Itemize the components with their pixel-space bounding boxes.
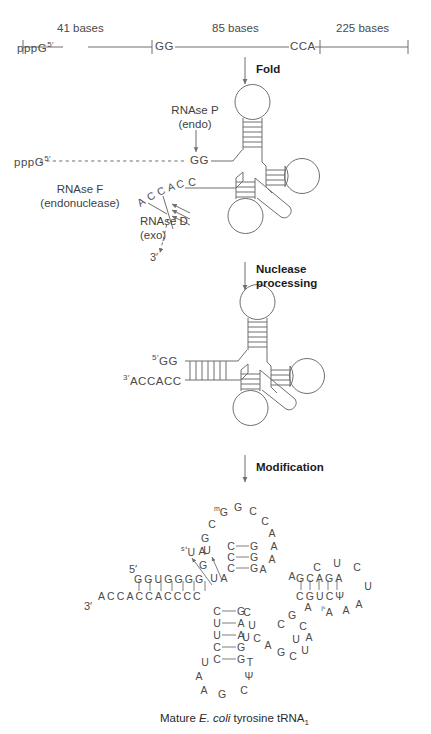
mature-acstem-right-base: G: [237, 606, 245, 617]
enzyme-rnase-d-name: RNAse D: [140, 214, 240, 228]
mature-dloop-base: A: [259, 564, 266, 575]
mature-acstem-left-base: U: [213, 630, 221, 641]
precursor-5prime-label: pppG5′: [17, 40, 54, 54]
folded-3prime-label: 3′: [150, 251, 158, 263]
mature-s4u-letter: U: [187, 546, 195, 558]
processed-5prime-seq: GG: [159, 355, 178, 367]
segment-length-225: 225 bases: [336, 22, 389, 34]
mature-acstem-right-base: G: [237, 654, 245, 665]
mature-variable-base: A: [264, 640, 271, 651]
mature-tloop-base: C: [313, 562, 321, 573]
mature-anticodon-base: G: [218, 689, 226, 700]
enzyme-rnase-p-name: RNAse P: [139, 103, 251, 117]
mature-acstem-left-base: C: [213, 606, 221, 617]
caption-species: E. coli: [199, 712, 230, 724]
mature-dstem-left-base: C: [227, 563, 235, 574]
processed-3prime-seq: ACCACC: [130, 375, 182, 387]
mature-variable-base: U: [292, 634, 300, 645]
processed-3prime-label: 3′ACCACC: [123, 373, 182, 387]
mature-linker-base: U: [210, 573, 218, 584]
mature-variable-base: G: [288, 610, 296, 621]
mature-acstem-right-base: A: [237, 618, 244, 629]
mature-acstem-left-base: U: [213, 618, 221, 629]
enzyme-rnase-p-type: (endo): [139, 117, 251, 131]
mature-anticodon-base: A: [195, 671, 202, 682]
precursor-cca-label: CCA: [290, 40, 316, 52]
step-nuclease-line2: processing: [256, 276, 317, 290]
mature-dloop-base: G: [201, 533, 209, 544]
mature-acstem-left-base: C: [213, 642, 221, 653]
mature-dloop-base: G: [199, 560, 207, 571]
mature-anticodon-base: A: [200, 685, 207, 696]
processed-trna-structure: [185, 285, 325, 426]
mature-dloop-base: C: [261, 516, 269, 527]
enzyme-rnase-p-label: RNAse P (endo): [139, 103, 251, 131]
mature-dloop-base: C: [208, 519, 216, 530]
mature-anticodon-base: C: [240, 685, 248, 696]
enzyme-rnase-f-type: (endonuclease): [20, 196, 140, 210]
mature-acceptor-3-strand: ACCACCACCCC: [98, 591, 203, 602]
mature-dloop-base: A: [268, 554, 275, 565]
segment-length-85: 85 bases: [212, 22, 259, 34]
precursor-5prime-text: pppG: [17, 42, 47, 54]
enzyme-rnase-f-label: RNAse F (endonuclease): [20, 182, 140, 210]
mature-variable-base: A: [305, 632, 312, 643]
processed-3prime-sup: 3′: [123, 373, 130, 382]
folded-accacc-letter: C: [188, 177, 196, 188]
folded-5prime-sup: 5′: [44, 154, 51, 163]
mature-i6a-letter: A: [326, 606, 333, 618]
mature-acstem-right-base: A: [237, 630, 244, 641]
mature-dloop-base: A: [270, 541, 277, 552]
folded-pppg-text: pppG: [14, 156, 44, 168]
mature-dstem-left-base: C: [227, 541, 235, 552]
mature-anticodon-base: T: [247, 657, 253, 668]
step-modification-label: Modification: [256, 461, 324, 473]
processed-5prime-sup: 5′: [152, 353, 159, 362]
figure-canvas: 41 bases 85 bases 225 bases pppG5′ GG CC…: [0, 0, 431, 734]
mature-variable-base: C: [299, 621, 307, 632]
enzyme-rnase-d-type: (exo): [140, 228, 240, 242]
mature-variable-base: U: [301, 645, 309, 656]
mature-acceptor-5-strand: GGUGGGG: [134, 574, 205, 585]
folded-gg-label: GG: [190, 154, 209, 166]
mature-linker-base: U: [203, 545, 211, 556]
figure-caption: Mature E. coli tyrosine tRNA1: [160, 712, 309, 727]
mature-i6a-base: i⁶A: [321, 605, 332, 617]
mature-3prime-label: 3′: [84, 600, 92, 612]
mature-variable-base: C: [253, 633, 261, 644]
mature-dstem-right-base: G: [250, 563, 258, 574]
step-fold-label: Fold: [256, 63, 280, 75]
precursor-gg-label: GG: [155, 40, 174, 52]
mature-variable-base: C: [289, 651, 297, 662]
caption-suffix: tyrosine tRNA: [230, 712, 304, 724]
mature-tloop-base: A: [342, 605, 349, 616]
step-nuclease-line1: Nuclease: [256, 262, 317, 276]
mature-variable-base: U: [248, 620, 256, 631]
mature-tloop-base: A: [355, 599, 362, 610]
mature-tloop-base: C: [353, 562, 361, 573]
mature-variable-base: G: [277, 647, 285, 658]
mature-dstem-right-base: G: [250, 541, 258, 552]
mature-acstem-left-base: C: [213, 654, 221, 665]
mature-tloop-base: A: [304, 602, 311, 613]
enzyme-rnase-d-label: RNAse D (exo): [140, 214, 240, 242]
precursor-backbone: [23, 40, 408, 54]
mature-dloop-base: A: [268, 528, 275, 539]
mature-s4u-base: s⁴U: [181, 545, 195, 557]
mature-tstem-top-strand: GCAGA: [296, 573, 344, 584]
mature-tloop-base: U: [333, 558, 341, 569]
mature-dloop-base: C: [249, 506, 257, 517]
caption-prefix: Mature: [160, 712, 199, 724]
mature-linker-base: A: [288, 571, 295, 582]
segment-length-41: 41 bases: [57, 22, 104, 34]
mature-acstem-right-base: G: [237, 642, 245, 653]
mature-dloop-base: mmGG: [214, 505, 228, 517]
precursor-5prime-sup: 5′: [47, 40, 54, 49]
folded-5prime-label: pppG5′: [14, 154, 51, 168]
enzyme-rnase-f-name: RNAse F: [20, 182, 140, 196]
caption-subscript: 1: [304, 718, 308, 727]
mature-linker-base: A: [220, 573, 227, 584]
step-nuclease-label: Nuclease processing: [256, 262, 317, 290]
mature-anticodon-base: Ψ: [245, 671, 254, 682]
mature-dloop-base: G: [234, 502, 242, 513]
